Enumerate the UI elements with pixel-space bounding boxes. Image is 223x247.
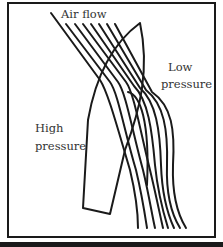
high-pressure-label-line2: pressure — [35, 139, 86, 153]
low-pressure-label-line2: pressure — [161, 77, 212, 91]
streamline-1 — [51, 13, 138, 228]
high-pressure-label-line1: High — [35, 121, 63, 135]
bottom-rule — [0, 242, 223, 247]
low-pressure-label-line1: Low — [168, 60, 192, 74]
air-flow-label: Air flow — [61, 7, 107, 21]
sail-airflow-diagram — [0, 0, 223, 247]
sail-outline — [83, 23, 144, 214]
